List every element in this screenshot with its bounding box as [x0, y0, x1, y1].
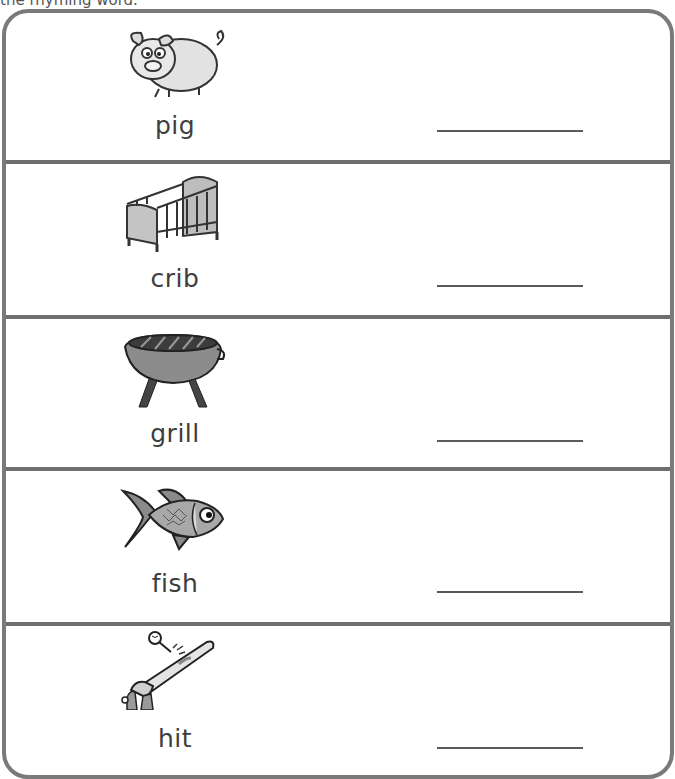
grill-icon: [119, 329, 229, 409]
word-label: pig: [116, 111, 234, 140]
word-label: fish: [116, 569, 234, 598]
word-label: grill: [116, 419, 234, 448]
worksheet-row-fish: fish: [6, 471, 670, 622]
worksheet-row-grill: grill: [6, 319, 670, 467]
answer-blank-pig[interactable]: [437, 130, 583, 132]
worksheet-row-hit: hit: [6, 626, 670, 775]
answer-blank-fish[interactable]: [437, 591, 583, 593]
worksheet-row-crib: crib: [6, 164, 670, 315]
pig-icon: [119, 23, 229, 103]
answer-blank-grill[interactable]: [437, 440, 583, 442]
word-label: hit: [116, 724, 234, 753]
bat-hitting-ball-icon: [119, 630, 229, 710]
word-label: crib: [116, 264, 234, 293]
worksheet-frame: pig crib: [2, 9, 674, 779]
answer-blank-hit[interactable]: [437, 747, 583, 749]
worksheet-row-pig: pig: [6, 13, 670, 160]
fish-icon: [119, 481, 229, 561]
answer-blank-crib[interactable]: [437, 285, 583, 287]
instructions-text: the rhyming word.: [0, 0, 138, 9]
crib-icon: [119, 172, 229, 252]
